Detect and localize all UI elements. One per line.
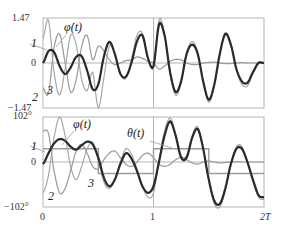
- figure: 1.47 0 −1.47 102° 0 −102° 0 1 2T φ̇(t) 1…: [0, 0, 285, 231]
- bottom-phi-label: φ(t): [73, 119, 91, 129]
- x-tick-1: 1: [150, 212, 155, 222]
- top-curve-1-label: 1: [31, 38, 37, 48]
- bottom-panel: [30, 117, 264, 208]
- top-yzero-label: 0: [31, 58, 36, 68]
- bottom-curve-2-label: 2: [48, 191, 54, 201]
- bottom-ymin-label: −102°: [4, 202, 29, 212]
- x-tick-2T: 2T: [260, 212, 271, 222]
- bottom-curve-1-label: 1: [31, 141, 37, 151]
- top-ymax-label: 1.47: [12, 13, 30, 23]
- top-curve-3-label: 3: [47, 85, 53, 95]
- x-tick-0: 0: [40, 212, 45, 222]
- top-curve-2-label: 2: [32, 92, 38, 102]
- bottom-theta-label: θ(t): [127, 128, 144, 138]
- bottom-yzero-label: 0: [31, 157, 36, 167]
- top-phidot-label: φ̇(t): [64, 22, 82, 32]
- bottom-curve-3-label: 3: [88, 178, 94, 188]
- bottom-ymax-label: 102°: [13, 111, 32, 121]
- plot-canvas: [0, 0, 285, 231]
